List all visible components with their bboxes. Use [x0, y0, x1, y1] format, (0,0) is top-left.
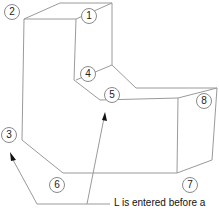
vertex-label-8: 8	[196, 93, 212, 109]
vertex-label-2: 2	[4, 4, 20, 20]
vertex-label-4: 4	[80, 66, 96, 82]
vertex-label-3: 3	[1, 127, 17, 143]
arrow-head-5	[102, 112, 107, 121]
vertex-label-7: 7	[182, 177, 198, 193]
vertex-label-1: 1	[81, 8, 97, 24]
arrow-head-3	[10, 152, 16, 161]
vertex-label-5: 5	[104, 87, 120, 103]
annotation-text: L is entered before a	[114, 197, 205, 208]
vertex-label-6: 6	[49, 177, 65, 193]
